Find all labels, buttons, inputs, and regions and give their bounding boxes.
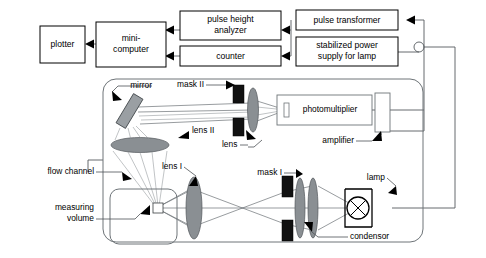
- arrowhead-lamp: [388, 186, 397, 195]
- callout-condensor: condensor: [350, 231, 389, 241]
- pulse-height-analyzer-label-line1: pulse height: [207, 14, 254, 24]
- mask-i-upper-blade[interactable]: [282, 176, 293, 197]
- mask-i-lower-blade[interactable]: [282, 220, 293, 241]
- lead-lamp: [387, 178, 396, 186]
- mini-computer-label-line1: mini-: [122, 33, 141, 43]
- condensor-lens-b[interactable]: [308, 178, 318, 238]
- photomultiplier-label: photomultiplier: [303, 104, 358, 114]
- lens-ii-element[interactable]: [111, 138, 169, 153]
- block-plotter[interactable]: plotter: [40, 26, 85, 63]
- measuring-volume[interactable]: [153, 203, 163, 213]
- arrowhead-condensor: [304, 222, 313, 232]
- pulse-height-analyzer-label-line2: analyzer: [214, 25, 247, 35]
- arrowhead-minicomputer-to-plotter: [85, 40, 94, 49]
- photomultiplier[interactable]: photomultiplier: [277, 95, 372, 125]
- amplifier-box[interactable]: [375, 93, 390, 132]
- callout-flow-channel: flow channel: [47, 166, 94, 176]
- arrowhead-mask-i: [296, 169, 303, 178]
- flow-channel[interactable]: [110, 189, 177, 244]
- block-stabilized-power-supply[interactable]: stabilized power supply for lamp: [296, 37, 398, 66]
- arrowhead-lens-ii: [178, 131, 189, 139]
- amplifier[interactable]: [375, 93, 390, 132]
- lens-i-element[interactable]: [186, 177, 202, 239]
- lamp[interactable]: [345, 189, 372, 227]
- block-counter[interactable]: counter: [180, 46, 281, 66]
- wire-hop-arc: [414, 42, 424, 52]
- block-diagram-canvas: plotter mini- computer pulse height anal…: [0, 0, 486, 258]
- arrowhead-transformer-to-counter: [281, 52, 290, 61]
- arrowhead-mirror: [112, 91, 122, 101]
- lead-condensor: [312, 232, 348, 237]
- callout-lens-i: lens I: [162, 161, 182, 171]
- block-pulse-transformer[interactable]: pulse transformer: [296, 10, 398, 30]
- detection-optics-group: photomultiplier: [111, 85, 390, 206]
- arrowhead-measuring-volume: [140, 205, 150, 215]
- callout-mirror: mirror: [130, 80, 152, 90]
- mini-computer-label-line2: computer: [113, 44, 149, 54]
- mask-ii-lower-blade[interactable]: [233, 118, 244, 136]
- callout-lamp: lamp: [367, 172, 385, 182]
- callout-lens-ii: lens II: [192, 125, 214, 135]
- block-mini-computer[interactable]: mini- computer: [96, 22, 166, 67]
- lens-detector[interactable]: [248, 88, 259, 132]
- stabilized-power-supply-label-line2: supply for lamp: [318, 51, 376, 61]
- electronics-block-group: plotter mini- computer pulse height anal…: [40, 10, 398, 67]
- lead-lens-b: [254, 140, 262, 147]
- callout-mask-i: mask I: [257, 167, 282, 177]
- measuring-volume-box[interactable]: [153, 203, 163, 213]
- diagram-root: plotter mini- computer pulse height anal…: [0, 0, 486, 258]
- photocathode-window: [284, 103, 289, 117]
- wire-transformer-bus: [290, 20, 291, 56]
- arrowhead-flow-channel: [122, 172, 132, 181]
- lens-ii[interactable]: [111, 138, 169, 153]
- plotter-label: plotter: [51, 39, 75, 49]
- lens-detector-element[interactable]: [248, 88, 259, 132]
- arrowhead-amplifier: [372, 131, 382, 141]
- arrowhead-transformer-input: [406, 16, 415, 25]
- callout-measuring-volume-line1: measuring: [55, 202, 94, 212]
- lead-lens-i: [184, 167, 196, 176]
- flow-channel-body[interactable]: [110, 189, 177, 244]
- condensor-lens-a[interactable]: [295, 178, 305, 238]
- wire-psu-to-lamp: [400, 47, 455, 208]
- callout-amplifier: amplifier: [322, 135, 354, 145]
- block-pulse-height-analyzer[interactable]: pulse height analyzer: [180, 11, 281, 40]
- callout-measuring-volume-line2: volume: [67, 213, 94, 223]
- mask-ii-upper-blade[interactable]: [233, 85, 244, 103]
- callout-mask-ii: mask II: [177, 79, 204, 89]
- detection-ray-bundle: [138, 101, 286, 124]
- counter-label: counter: [216, 51, 245, 61]
- stabilized-power-supply-label-line1: stabilized power: [316, 40, 378, 50]
- mask-i[interactable]: [282, 176, 293, 241]
- arrowhead-transformer-to-pha: [281, 26, 290, 35]
- pulse-transformer-label: pulse transformer: [314, 15, 381, 25]
- callout-lens: lens: [222, 139, 237, 149]
- lens-i[interactable]: [186, 177, 202, 239]
